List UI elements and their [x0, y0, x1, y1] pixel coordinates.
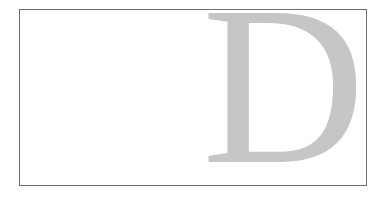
large-letter-d: D	[202, 9, 365, 186]
bordered-frame: D	[19, 9, 367, 186]
